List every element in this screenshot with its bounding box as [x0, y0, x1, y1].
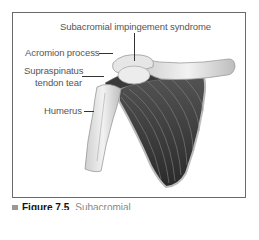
- clavicle: [141, 59, 235, 80]
- figure-caption: Figure 7.5Subacromial: [12, 202, 131, 210]
- humeral-head: [118, 66, 150, 84]
- scapula-muscle: [119, 71, 205, 187]
- leader-line-humerus: [84, 111, 94, 112]
- label-supraspinatus-line1: Supraspinatus: [24, 65, 83, 76]
- label-supraspinatus-line2: tendon tear: [35, 77, 82, 88]
- leader-line-acromion: [99, 53, 113, 54]
- label-subacromial-impingement: Subacromial impingement syndrome: [60, 21, 211, 32]
- label-humerus: Humerus: [44, 105, 82, 116]
- leader-line-subacromial: [134, 33, 135, 61]
- label-acromion-process: Acromion process: [25, 47, 99, 58]
- figure-number: Figure 7.5: [22, 202, 69, 210]
- leader-line-supraspinatus: [82, 76, 104, 77]
- humerus: [85, 84, 121, 171]
- caption-text: Subacromial: [75, 202, 131, 210]
- caption-bullet-icon: [12, 205, 18, 210]
